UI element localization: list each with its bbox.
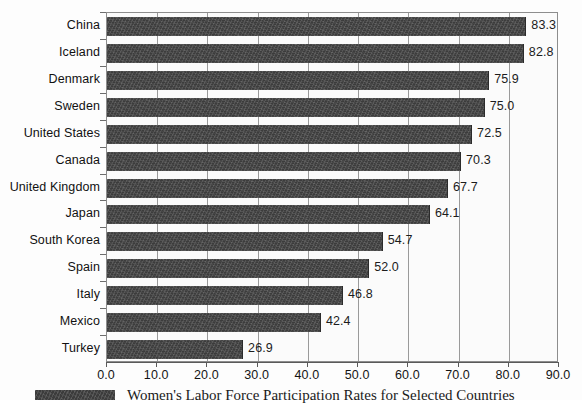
bar-row: 26.9	[107, 336, 557, 363]
bar	[107, 125, 472, 144]
x-axis-tick-label: 10.0	[144, 368, 169, 382]
x-axis-tick-label: 60.0	[395, 368, 420, 382]
plot-area: 83.382.875.975.072.570.367.764.154.752.0…	[106, 12, 558, 362]
category-label: Mexico	[0, 308, 100, 335]
bar-value-label: 67.7	[453, 178, 478, 196]
legend-swatch-icon	[35, 390, 115, 400]
bar-value-label: 83.3	[531, 16, 556, 34]
bar-value-label: 75.0	[490, 97, 515, 115]
bar-row: 52.0	[107, 255, 557, 282]
x-axis-tick-label: 90.0	[546, 368, 571, 382]
bar	[107, 313, 321, 332]
x-axis-tick-label: 80.0	[495, 368, 520, 382]
bar-value-label: 26.9	[248, 339, 273, 357]
bar-row: 46.8	[107, 282, 557, 309]
category-label: Denmark	[0, 66, 100, 93]
bar-row: 64.1	[107, 201, 557, 228]
category-label: United States	[0, 120, 100, 147]
category-label: United Kingdom	[0, 174, 100, 201]
bar-row: 67.7	[107, 175, 557, 202]
bar	[107, 259, 369, 278]
bar	[107, 340, 243, 359]
bar	[107, 205, 430, 224]
bar	[107, 179, 448, 198]
bar	[107, 71, 489, 90]
x-axis-tick-label: 70.0	[445, 368, 470, 382]
x-axis-tick	[458, 362, 459, 367]
x-axis-tick	[106, 362, 107, 367]
bar	[107, 98, 485, 117]
category-label: Japan	[0, 200, 100, 227]
gridline	[559, 13, 560, 361]
category-label: South Korea	[0, 227, 100, 254]
x-axis-tick	[558, 362, 559, 367]
x-axis-tick-label: 50.0	[345, 368, 370, 382]
chart-legend: Women's Labor Force Participation Rates …	[35, 389, 515, 401]
bar-value-label: 42.4	[326, 312, 351, 330]
bar-value-label: 54.7	[388, 231, 413, 249]
x-axis-tick	[156, 362, 157, 367]
x-axis-tick	[307, 362, 308, 367]
bar-row: 54.7	[107, 228, 557, 255]
bar-value-label: 52.0	[374, 258, 399, 276]
category-label: Turkey	[0, 335, 100, 362]
bar-value-label: 70.3	[466, 151, 491, 169]
bar-row: 82.8	[107, 40, 557, 67]
bar-value-label: 82.8	[529, 43, 554, 61]
category-label: Spain	[0, 254, 100, 281]
bar	[107, 286, 343, 305]
bar	[107, 44, 524, 63]
bar-value-label: 75.9	[494, 70, 519, 88]
bar-rows: 83.382.875.975.072.570.367.764.154.752.0…	[107, 13, 557, 361]
legend-label: Women's Labor Force Participation Rates …	[127, 389, 515, 401]
bar-row: 70.3	[107, 148, 557, 175]
x-axis-tick-label: 30.0	[244, 368, 269, 382]
bar-row: 75.0	[107, 94, 557, 121]
x-axis-line	[106, 362, 558, 363]
bar-value-label: 72.5	[477, 124, 502, 142]
category-label: Canada	[0, 147, 100, 174]
category-label: Italy	[0, 281, 100, 308]
x-axis-tick-label: 0.0	[97, 368, 115, 382]
category-label: Iceland	[0, 39, 100, 66]
category-label: China	[0, 12, 100, 39]
bar	[107, 232, 383, 251]
bar	[107, 17, 526, 36]
x-axis-tick	[407, 362, 408, 367]
bar-row: 75.9	[107, 67, 557, 94]
bar	[107, 152, 461, 171]
bar-row: 72.5	[107, 121, 557, 148]
bar-value-label: 64.1	[435, 204, 460, 222]
x-axis-tick-label: 40.0	[295, 368, 320, 382]
x-axis-tick-label: 20.0	[194, 368, 219, 382]
bar-row: 83.3	[107, 13, 557, 40]
bar-value-label: 46.8	[348, 285, 373, 303]
x-axis-tick	[357, 362, 358, 367]
category-label: Sweden	[0, 93, 100, 120]
x-axis-tick	[508, 362, 509, 367]
category-axis: ChinaIcelandDenmarkSwedenUnited StatesCa…	[0, 12, 100, 362]
x-axis-tick	[257, 362, 258, 367]
x-axis-tick	[206, 362, 207, 367]
bar-row: 42.4	[107, 309, 557, 336]
